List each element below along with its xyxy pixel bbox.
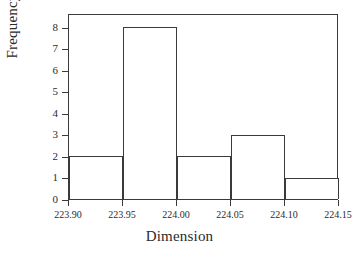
x-tick-label: 224.00 [151,209,201,221]
x-tick-label: 224.05 [205,209,255,221]
y-tick-label: 2 [40,151,58,162]
x-tick-mark [338,200,339,206]
histogram-bar [231,135,285,200]
x-tick-label: 223.90 [43,209,93,221]
y-tick-label: 0 [40,194,58,205]
x-axis-title: Dimension [0,228,359,245]
y-axis-title: Frequency [0,0,24,119]
x-tick-mark [176,200,177,206]
histogram-bar [69,156,123,199]
y-tick-label: 6 [40,65,58,76]
y-tick-label: 5 [40,86,58,97]
y-tick-mark [62,49,68,50]
bar-series [69,15,337,199]
y-tick-mark [62,178,68,179]
x-tick-label: 224.10 [259,209,309,221]
histogram-bar [285,178,339,200]
y-tick-mark [62,157,68,158]
x-tick-label: 223.95 [97,209,147,221]
histogram-bar [123,27,177,199]
x-tick-mark [122,200,123,206]
x-tick-mark [230,200,231,206]
y-tick-mark [62,135,68,136]
x-tick-mark [68,200,69,206]
y-tick-label: 7 [40,43,58,54]
y-tick-mark [62,71,68,72]
y-tick-label: 8 [40,22,58,33]
y-tick-label: 3 [40,129,58,140]
x-tick-label: 224.15 [313,209,359,221]
histogram-figure: Frequency 012345678 223.90223.95224.0022… [0,0,359,257]
plot-area [68,14,338,200]
y-tick-mark [62,92,68,93]
y-tick-label: 1 [40,172,58,183]
y-tick-mark [62,114,68,115]
histogram-bar [177,156,231,199]
y-tick-mark [62,28,68,29]
y-tick-label: 4 [40,108,58,119]
x-tick-mark [284,200,285,206]
